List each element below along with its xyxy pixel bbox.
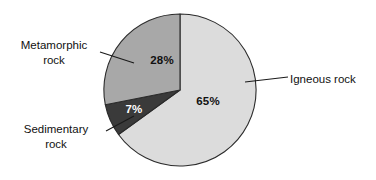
callout-label-metamorphic: Metamorphic rock	[8, 38, 100, 68]
value-label-igneous: 65%	[196, 95, 220, 107]
pie-chart-figure: 28% 7% 65% Metamorphic rock Sedimentary …	[0, 0, 376, 180]
value-label-sedimentary: 7%	[125, 103, 142, 115]
callout-metamorphic-line-1: Metamorphic	[8, 38, 100, 53]
callout-label-sedimentary: Sedimentary rock	[6, 122, 106, 152]
callout-sedimentary-line-1: Sedimentary	[6, 122, 106, 137]
callout-igneous-line-1: Igneous rock	[290, 72, 356, 87]
callout-label-igneous: Igneous rock	[290, 72, 356, 87]
callout-metamorphic-line-2: rock	[8, 53, 100, 68]
value-label-metamorphic: 28%	[150, 54, 174, 66]
pie-chart-svg: 28% 7% 65%	[0, 0, 376, 180]
callout-sedimentary-line-2: rock	[6, 137, 106, 152]
